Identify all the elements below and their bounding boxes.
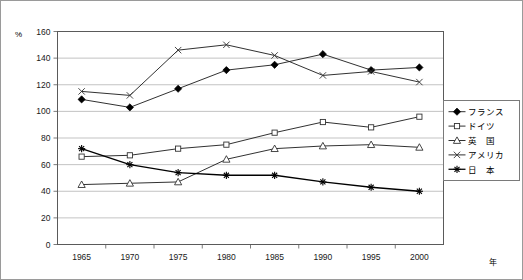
y-tick-label: 120	[36, 80, 50, 90]
legend-marker	[454, 124, 459, 129]
data-point-marker	[79, 154, 84, 159]
data-point-marker	[126, 161, 133, 168]
data-point-marker	[271, 61, 278, 68]
gridlines	[58, 32, 444, 218]
x-tick-label: 1990	[313, 252, 332, 262]
series-hollow-square	[79, 114, 422, 159]
data-point-marker	[416, 188, 423, 195]
data-point-marker	[176, 146, 181, 151]
y-tick-label: 0	[46, 240, 51, 250]
legend-item[interactable]: フランス	[449, 107, 504, 117]
y-tick-label: 100	[36, 106, 50, 116]
data-point-marker	[320, 119, 325, 124]
x-tick-label: 1995	[362, 252, 381, 262]
y-axis-ticks: 020406080100120140160	[36, 27, 57, 250]
data-point-marker	[417, 114, 422, 119]
line-chart: % 年 020406080100120140160 19651970197519…	[0, 0, 523, 280]
y-tick-label: 40	[41, 186, 51, 196]
legend-item-label: ドイツ	[468, 121, 495, 131]
chart-canvas: 020406080100120140160 196519701975198019…	[1, 1, 523, 280]
legend-item-label: 日 本	[468, 165, 495, 175]
x-tick-label: 1980	[217, 252, 236, 262]
legend-item-label: アメリカ	[468, 150, 504, 160]
x-tick-label: 1975	[169, 252, 188, 262]
x-tick-label: 2000	[410, 252, 429, 262]
data-point-marker	[175, 85, 182, 92]
data-point-marker	[416, 79, 422, 85]
series-path	[82, 54, 420, 107]
data-point-marker	[368, 184, 375, 191]
data-point-marker	[369, 125, 374, 130]
y-tick-label: 20	[41, 213, 51, 223]
data-point-marker	[319, 51, 326, 58]
data-point-marker	[271, 52, 277, 58]
x-tick-label: 1970	[120, 252, 139, 262]
data-point-marker	[127, 153, 132, 158]
data-point-marker	[319, 178, 326, 185]
data-point-marker	[224, 142, 229, 147]
y-tick-label: 140	[36, 53, 50, 63]
data-point-marker	[223, 172, 230, 179]
data-point-marker	[78, 145, 85, 152]
data-point-marker	[175, 169, 182, 176]
data-point-marker	[223, 67, 230, 74]
y-tick-label: 60	[41, 160, 51, 170]
y-tick-label: 80	[41, 133, 51, 143]
x-axis-ticks: 19651970197519801985199019952000	[72, 245, 429, 262]
data-point-marker	[416, 64, 423, 71]
x-tick-label: 1985	[265, 252, 284, 262]
legend-item-label: フランス	[468, 107, 504, 117]
series-lines	[78, 42, 423, 195]
data-point-marker	[271, 172, 278, 179]
y-tick-label: 160	[36, 27, 50, 37]
data-point-marker	[126, 104, 133, 111]
x-tick-label: 1965	[72, 252, 91, 262]
data-point-marker	[368, 67, 375, 74]
data-point-marker	[272, 130, 277, 135]
chart-legend: フランスドイツ英 国アメリカ日 本	[444, 101, 520, 181]
series-filled-diamond	[78, 51, 423, 111]
series-path	[82, 117, 420, 157]
legend-item-label: 英 国	[468, 136, 495, 146]
data-point-marker	[78, 96, 85, 103]
